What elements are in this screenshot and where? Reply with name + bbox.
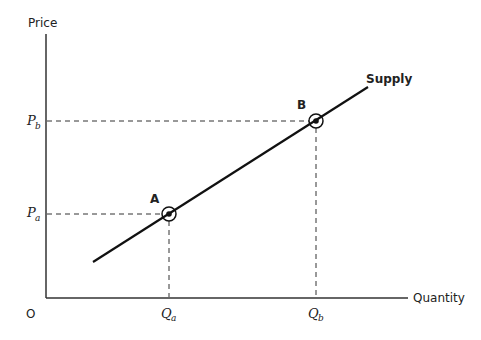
point-a xyxy=(162,207,176,221)
y-axis-label: Price xyxy=(28,16,57,30)
price-a-label: P a xyxy=(26,205,40,223)
point-b xyxy=(309,114,323,128)
x-axis-label: Quantity xyxy=(413,291,465,305)
svg-text:a: a xyxy=(35,213,40,223)
price-b-label: P b xyxy=(26,113,41,131)
quantity-a-label: Q a xyxy=(161,306,176,323)
supply-curve xyxy=(93,87,368,262)
supply-diagram: Price Quantity O Supply A B P b P a Q a … xyxy=(0,0,481,340)
svg-text:a: a xyxy=(171,313,176,323)
quantity-b-label: Q b xyxy=(308,306,324,323)
origin-label: O xyxy=(26,307,35,321)
svg-text:b: b xyxy=(318,313,324,323)
svg-text:b: b xyxy=(35,121,41,131)
point-b-label: B xyxy=(297,98,306,112)
point-a-label: A xyxy=(150,192,160,206)
supply-curve-label: Supply xyxy=(366,72,412,86)
